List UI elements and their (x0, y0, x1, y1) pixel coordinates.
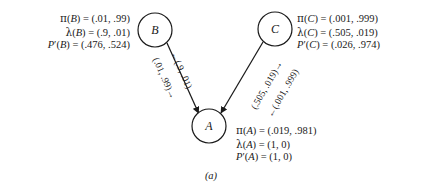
pi-symbol: π (60, 12, 67, 24)
param-block-c: π(C) = (.001, .999) λ(C) = (.505, .019) … (297, 12, 419, 52)
param-value: (.026, .974) (331, 39, 380, 50)
pi-symbol: π (236, 124, 243, 136)
param-row-b-pi: π(B) = (.01, .99) (12, 12, 130, 26)
equals-sign: = (259, 139, 265, 150)
lambda-symbol: λ (236, 138, 243, 150)
equals-sign: = (88, 27, 94, 38)
paren-close: ) (66, 39, 70, 50)
param-block-a: π(A) = (.019, .981) λ(A) = (1, 0) P′(A) … (236, 124, 366, 164)
paren-close: ) (316, 39, 320, 50)
param-row-c-pi: π(C) = (.001, .999) (297, 12, 419, 26)
paren-close: ) (253, 139, 257, 150)
param-value: (.01, .99) (92, 13, 131, 24)
param-value: (.505, .019) (329, 27, 378, 38)
param-row-a-pi: π(A) = (.019, .981) (236, 124, 366, 138)
node-c-label: C (258, 12, 292, 46)
param-value: (.476, .524) (81, 39, 130, 50)
param-value: (.001, .999) (329, 13, 378, 24)
param-value: (1, 0) (269, 151, 292, 162)
paren-close: ) (77, 13, 81, 24)
equals-sign: = (321, 13, 327, 24)
param-row-c-lambda: λ(C) = (.505, .019) (297, 26, 419, 40)
node-a-label: A (192, 109, 226, 143)
equals-sign: = (320, 27, 326, 38)
equals-sign: = (72, 39, 78, 50)
figure-caption: (a) (0, 170, 422, 181)
paren-close: ) (253, 125, 257, 136)
lambda-symbol: λ (297, 26, 304, 38)
paren-close: ) (255, 151, 259, 162)
param-value: (1, 0) (267, 139, 290, 150)
paren-close: ) (314, 27, 318, 38)
pi-symbol: π (297, 12, 304, 24)
paren-close: ) (314, 13, 318, 24)
equals-sign: = (83, 13, 89, 24)
param-value: (.9, .01) (97, 27, 130, 38)
equals-sign: = (322, 39, 328, 50)
param-row-b-lambda: λ(B) = (.9, .01) (12, 26, 130, 40)
param-row-a-lambda: λ(A) = (1, 0) (236, 138, 366, 152)
param-row-a-p: P′(A) = (1, 0) (236, 151, 366, 164)
node-b-label: B (138, 13, 172, 47)
param-row-b-p: P′(B) = (.476, .524) (12, 39, 130, 52)
paren-close: ) (82, 27, 86, 38)
equals-sign: = (261, 151, 267, 162)
figure-canvas: B C A ←(.9, .01) (.01, .99)→ (.505, .019… (0, 0, 422, 193)
param-value: (.019, .981) (268, 125, 317, 136)
param-block-b: π(B) = (.01, .99) λ(B) = (.9, .01) P′(B)… (12, 12, 130, 52)
param-row-c-p: P′(C) = (.026, .974) (297, 39, 419, 52)
equals-sign: = (259, 125, 265, 136)
